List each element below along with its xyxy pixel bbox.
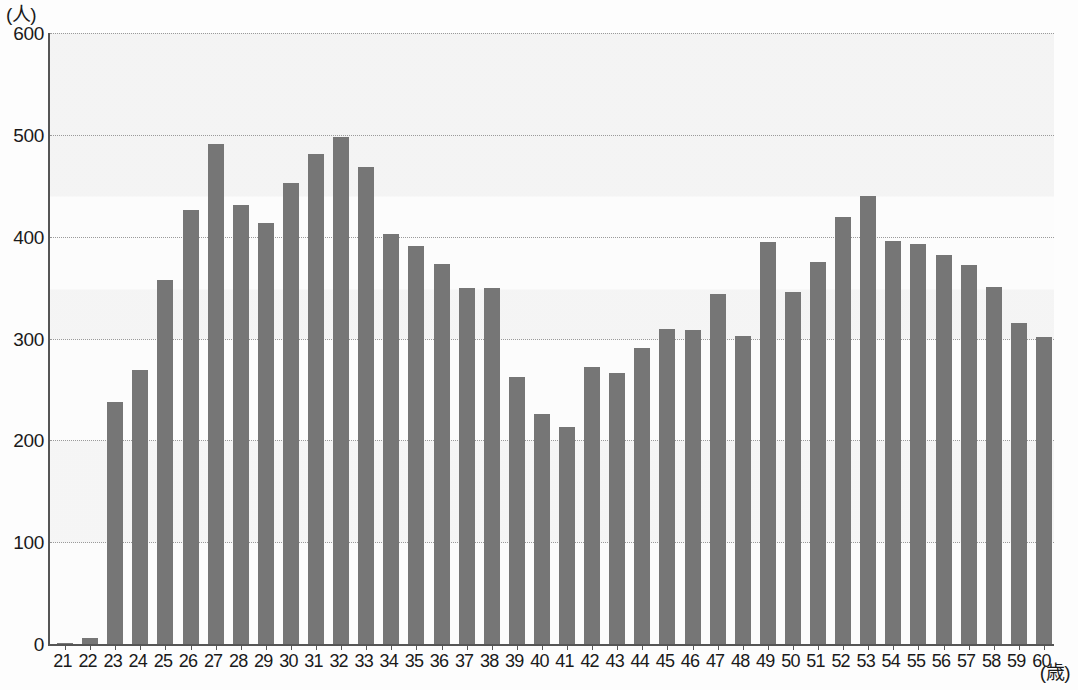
bar [735,336,751,644]
x-axis-tick-label: 46 [679,651,702,671]
bar-slot [556,33,579,644]
x-axis-tick-mark [291,644,292,650]
x-axis-tick-label: 59 [1005,651,1028,671]
y-axis-tick-label: 400 [2,228,44,247]
x-axis-tick-mark [65,644,66,650]
bar-slot [682,33,705,644]
x-axis-tick-label: 57 [955,651,978,671]
x-axis-tick-label: 52 [829,651,852,671]
x-axis-tick-label: 34 [377,651,400,671]
bar [208,144,224,644]
bar-slot [656,33,679,644]
x-axis-tick-mark [793,644,794,650]
x-axis-tick-label: 44 [628,651,651,671]
bar [961,265,977,644]
bar-slot [1033,33,1056,644]
bars-layer [50,33,1054,644]
x-axis-tick-label: 35 [402,651,425,671]
x-axis-tick-label: 27 [202,651,225,671]
bar-slot [757,33,780,644]
x-axis-tick-label: 43 [603,651,626,671]
x-axis-tick-mark [467,644,468,650]
y-axis-tick-label: 200 [2,431,44,450]
bar [308,154,324,644]
bar [358,167,374,644]
bar-slot [832,33,855,644]
x-axis-tick-mark [316,644,317,650]
x-axis-tick-mark [90,644,91,650]
x-axis-tick-mark [768,644,769,650]
x-axis-tick-mark [893,644,894,650]
plot-area [48,33,1054,646]
bar [1011,323,1027,644]
bar-slot [606,33,629,644]
y-axis-tick-label: 500 [2,126,44,145]
x-axis-tick-mark [191,644,192,650]
x-axis-tick-label: 49 [754,651,777,671]
bar [1036,337,1052,644]
bar-slot [205,33,228,644]
x-axis-tick-mark [517,644,518,650]
x-axis-tick-label: 23 [101,651,124,671]
bar-slot [456,33,479,644]
bar [333,137,349,644]
bar-slot [1008,33,1031,644]
x-axis-tick-mark [818,644,819,650]
x-axis-tick-label: 28 [227,651,250,671]
x-axis-tick-label: 47 [704,651,727,671]
x-axis-tick-mark [868,644,869,650]
bar [183,210,199,644]
bar [634,348,650,644]
bar [509,377,525,644]
bar-slot [907,33,930,644]
x-axis-tick-label: 58 [980,651,1003,671]
x-axis-tick-mark [667,644,668,650]
x-axis-tick-mark [366,644,367,650]
x-axis-tick-mark [1019,644,1020,650]
x-axis-tick-label: 22 [76,651,99,671]
x-axis-tick-mark [743,644,744,650]
bar-slot [380,33,403,644]
x-axis-tick-label: 33 [352,651,375,671]
x-axis-tick-label: 48 [729,651,752,671]
bar-slot [104,33,127,644]
x-axis-tick-mark [843,644,844,650]
bar-slot [958,33,981,644]
bar [760,242,776,644]
x-axis-tick-mark [442,644,443,650]
x-axis-tick-label: 26 [177,651,200,671]
x-axis-tick-label: 29 [252,651,275,671]
x-axis-tick-label: 45 [653,651,676,671]
x-axis-tick-mark [693,644,694,650]
x-axis-tick-label: 31 [302,651,325,671]
x-axis-tick-mark [969,644,970,650]
bar [710,294,726,644]
bar [986,287,1002,644]
x-axis-tick-label: 54 [879,651,902,671]
bar-slot [807,33,830,644]
x-axis-tick-label: 55 [904,651,927,671]
bar-slot [933,33,956,644]
bar-slot [531,33,554,644]
x-axis-tick-mark [341,644,342,650]
x-axis-tick-mark [416,644,417,650]
bar [484,288,500,644]
x-axis-tick-label: 41 [553,651,576,671]
bar [559,427,575,644]
bar-slot [54,33,77,644]
bar-slot [154,33,177,644]
bar-slot [405,33,428,644]
bar [434,264,450,644]
bar-slot [230,33,253,644]
bar [785,292,801,644]
x-axis-tick-mark [617,644,618,650]
x-axis-tick-label: 42 [578,651,601,671]
x-axis-tick-label: 37 [453,651,476,671]
y-axis-tick-label: 300 [2,330,44,349]
x-axis-tick-mark [994,644,995,650]
bar-slot [732,33,755,644]
bar [459,288,475,644]
x-axis-tick-mark [718,644,719,650]
bar [860,196,876,644]
bar-chart: (人) (歳) 0100200300400500600 212223242526… [0,0,1078,690]
